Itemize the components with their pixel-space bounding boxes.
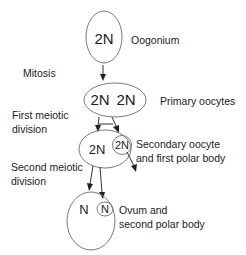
secondary-label-line1: Secondary oocyte <box>136 138 220 150</box>
oogonium-ploidy: 2N <box>94 30 113 47</box>
second-meiotic-arrows <box>87 166 105 199</box>
mitosis-label: Mitosis <box>23 67 56 79</box>
ovum-ploidy: N <box>79 202 88 217</box>
ovum-label-line1: Ovum and <box>119 204 168 216</box>
oogenesis-diagram: 2N Oogonium Mitosis 2N 2N Primary oocyte… <box>0 0 246 255</box>
mitosis-arrow <box>100 65 106 81</box>
primary-ploidy-right: 2N <box>116 91 135 108</box>
oogonium-label: Oogonium <box>131 34 180 46</box>
primary-oocytes-label: Primary oocytes <box>160 95 235 107</box>
first-polar-body: 2N <box>113 136 132 155</box>
second-polar-body-ploidy: N <box>101 203 109 215</box>
primary-ploidy-left: 2N <box>90 91 109 108</box>
first-meiotic-label-line2: division <box>12 123 47 135</box>
primary-oocyte-cell: 2N 2N <box>84 83 146 117</box>
second-meiotic-label-line2: division <box>11 175 46 187</box>
oogonium-cell: 2N <box>86 11 122 63</box>
secondary-ploidy: 2N <box>89 142 106 157</box>
second-meiotic-label-line1: Second meiotic <box>11 161 83 173</box>
ovum-label-line2: second polar body <box>119 218 206 230</box>
first-polar-body-ploidy: 2N <box>115 139 129 151</box>
first-meiotic-label-line1: First meiotic <box>12 109 69 121</box>
ovum-cell: N <box>67 192 115 250</box>
secondary-label-line2: and first polar body <box>136 152 226 164</box>
second-polar-body: N <box>97 202 113 216</box>
